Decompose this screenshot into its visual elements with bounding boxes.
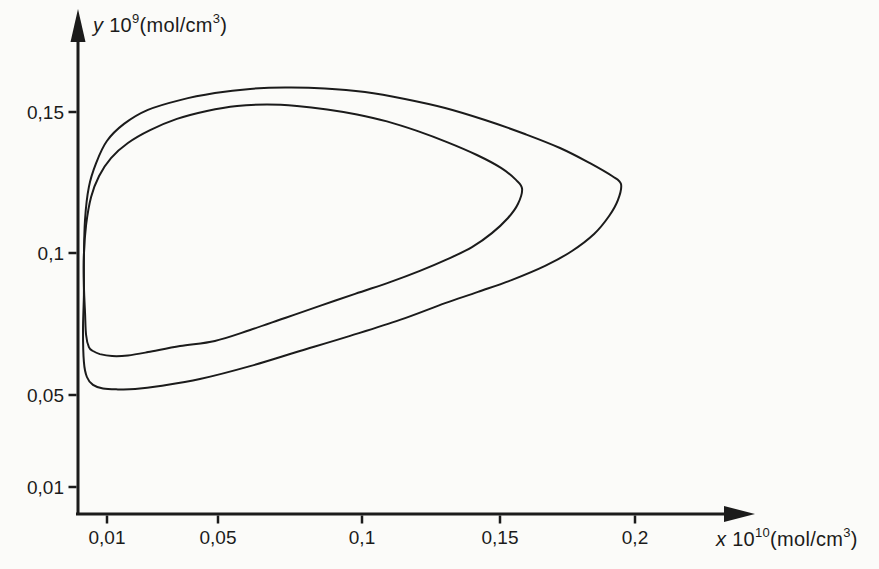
plot-canvas: 0,010,050,10,150,20,150,10,050,01 — [0, 0, 879, 569]
x-axis-variable: x — [716, 528, 726, 550]
trajectory-curve-outer — [83, 87, 621, 389]
y-axis-arrow-icon — [71, 9, 86, 42]
x-axis-base: 10 — [726, 528, 755, 550]
x-tick-label: 0,1 — [349, 527, 375, 548]
x-axis-label: x 1010(mol/cm3) — [716, 526, 858, 551]
y-axis-label: y 109(mol/cm3) — [93, 12, 227, 37]
x-tick-label: 0,05 — [200, 527, 237, 548]
y-axis-base: 10 — [103, 14, 132, 36]
x-axis-unit-close: ) — [851, 528, 858, 550]
x-tick-label: 0,01 — [89, 527, 126, 548]
y-axis-unit-close: ) — [220, 14, 227, 36]
x-tick-label: 0,15 — [482, 527, 519, 548]
x-axis-unit: (mol/cm — [770, 528, 843, 550]
y-axis-variable: y — [93, 14, 103, 36]
x-axis-arrow-icon — [724, 506, 755, 522]
y-tick-label: 0,05 — [27, 385, 64, 406]
x-tick-label: 0,2 — [622, 527, 648, 548]
x-axis-exponent: 10 — [755, 525, 770, 540]
y-axis-unit: (mol/cm — [140, 14, 213, 36]
trajectory-curve-inner — [84, 105, 522, 357]
y-axis-unit-exponent: 3 — [213, 11, 221, 26]
x-axis-unit-exponent: 3 — [843, 525, 851, 540]
y-tick-label: 0,01 — [27, 477, 64, 498]
y-tick-label: 0,1 — [38, 243, 64, 264]
phase-plane-figure: 0,010,050,10,150,20,150,10,050,01 y 109(… — [0, 0, 879, 569]
y-axis-exponent: 9 — [132, 11, 140, 26]
y-tick-label: 0,15 — [27, 102, 64, 123]
